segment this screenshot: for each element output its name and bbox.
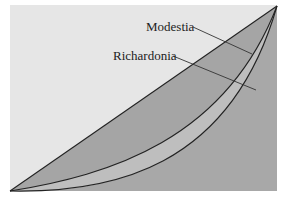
- richardonia-label: Richardonia: [113, 48, 177, 63]
- lorenz-diagram: Modestia Richardonia: [0, 0, 286, 200]
- modestia-label: Modestia: [146, 19, 195, 34]
